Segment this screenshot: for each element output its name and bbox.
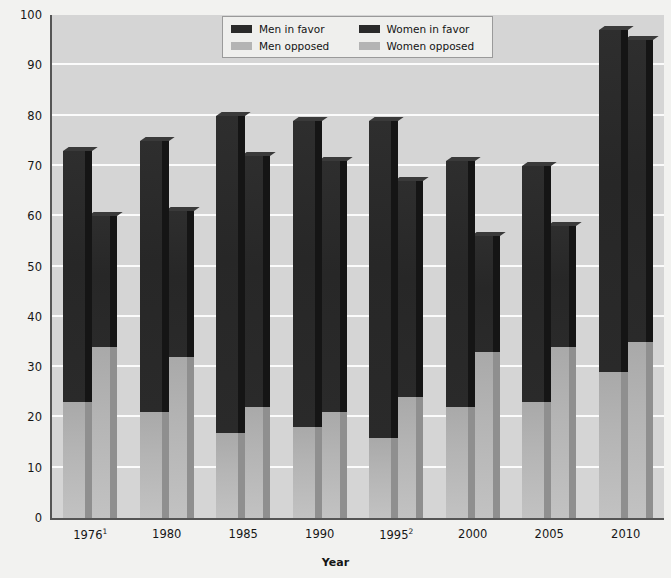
bar-women-2010-favor-side-face	[646, 40, 653, 342]
legend-item: Men in favor	[231, 20, 359, 37]
bar-men-2005-favor-segment	[522, 166, 544, 402]
bar-men-1985-opposed-side-face	[238, 433, 245, 519]
y-axis-tick-label: 40	[0, 310, 42, 324]
bar-women-2005-favor-side-face	[569, 226, 576, 347]
bar-men-1985-favor-segment	[216, 116, 238, 433]
bar-women-1985-opposed-side-face	[263, 407, 270, 518]
x-axis-tick-label: 1980	[152, 527, 181, 541]
bar-women-1985-favor-side-face	[263, 156, 270, 408]
y-axis-tick-label: 50	[0, 260, 42, 274]
bar-men-1995-top-face	[369, 117, 404, 121]
bar-men-1995	[369, 121, 391, 518]
bar-men-1985-favor-side-face	[238, 116, 245, 433]
bar-women-2000-opposed-side-face	[493, 352, 500, 518]
bar-women-1980-top-face	[165, 207, 200, 211]
legend-item: Women opposed	[359, 37, 487, 54]
bar-men-1976-opposed-segment	[63, 402, 85, 518]
bar-women-1980-opposed-side-face	[187, 357, 194, 518]
x-axis-tick-label: 1990	[305, 527, 334, 541]
bar-women-1976-opposed-side-face	[110, 347, 117, 518]
bar-men-1990-opposed-segment	[293, 427, 315, 518]
bar-men-1980-top-face	[140, 137, 175, 141]
bar-men-2010-favor-segment	[599, 30, 621, 372]
bar-men-2005-favor-side-face	[544, 166, 551, 402]
legend-swatch-light	[231, 42, 252, 50]
bar-women-2000-favor-side-face	[493, 236, 500, 352]
bar-men-2000-favor-side-face	[468, 161, 475, 407]
bar-men-1980-opposed-segment	[140, 412, 162, 518]
bar-men-1990	[293, 121, 315, 518]
bar-women-1995-favor-side-face	[416, 181, 423, 397]
x-axis-title: Year	[0, 556, 671, 569]
legend-item-label: Women opposed	[387, 40, 475, 52]
x-axis-tick-label: 2000	[458, 527, 487, 541]
y-axis-tick-label: 0	[0, 511, 42, 525]
bar-women-1985-top-face	[241, 152, 276, 156]
chart-legend: Men in favorWomen in favorMen opposedWom…	[222, 16, 493, 58]
bar-men-1976-favor-side-face	[85, 151, 92, 403]
y-axis-tick-label: 30	[0, 360, 42, 374]
bar-women-1980-favor-side-face	[187, 211, 194, 357]
bar-women-2000-top-face	[471, 232, 506, 236]
bar-men-1980-favor-segment	[140, 141, 162, 413]
legend-item-label: Men in favor	[259, 23, 325, 35]
bar-men-1985-opposed-segment	[216, 433, 238, 519]
bar-men-2010-top-face	[599, 26, 634, 30]
legend-item: Women in favor	[359, 20, 487, 37]
x-tick-footnote-marker: 2	[409, 527, 414, 536]
bar-men-1990-favor-side-face	[315, 121, 322, 428]
bar-men-1985	[216, 116, 238, 518]
bar-men-1990-opposed-side-face	[315, 427, 322, 518]
legend-swatch-dark	[231, 25, 252, 33]
legend-item-label: Women in favor	[387, 23, 470, 35]
x-axis-tick-label: 19952	[379, 527, 413, 542]
legend-swatch-dark	[359, 25, 380, 33]
bar-women-2005-opposed-side-face	[569, 347, 576, 518]
bar-men-1980	[140, 141, 162, 518]
y-axis-tick-label: 80	[0, 109, 42, 123]
bar-women-1976-favor-side-face	[110, 216, 117, 347]
bar-men-1995-favor-segment	[369, 121, 391, 438]
bar-women-1990-opposed-side-face	[340, 412, 347, 518]
x-axis-tick-label: 1985	[229, 527, 258, 541]
bar-men-1990-top-face	[293, 117, 328, 121]
bar-men-1995-opposed-segment	[369, 438, 391, 518]
x-tick-footnote-marker: 1	[103, 527, 108, 536]
bar-women-2010-opposed-side-face	[646, 342, 653, 518]
bar-men-1976-opposed-side-face	[85, 402, 92, 518]
x-axis-tick-label: 19761	[73, 527, 107, 542]
bar-men-1980-opposed-side-face	[162, 412, 169, 518]
bar-chart: 0102030405060708090100 19761198019851990…	[0, 0, 671, 578]
bar-men-1976-top-face	[63, 147, 98, 151]
legend-item: Men opposed	[231, 37, 359, 54]
bar-men-2000-opposed-segment	[446, 407, 468, 518]
x-axis-tick-label: 2010	[611, 527, 640, 541]
x-axis-tick-label: 2005	[535, 527, 564, 541]
bar-men-1976	[63, 151, 85, 518]
y-axis-tick-label: 10	[0, 461, 42, 475]
bar-men-2010	[599, 30, 621, 518]
bar-women-1995-opposed-side-face	[416, 397, 423, 518]
bar-women-1990-favor-side-face	[340, 161, 347, 413]
bar-men-1980-favor-side-face	[162, 141, 169, 413]
bar-men-2005-opposed-segment	[522, 402, 544, 518]
y-axis-tick-label: 60	[0, 209, 42, 223]
bar-men-2005-top-face	[522, 162, 557, 166]
y-axis-tick-label: 70	[0, 159, 42, 173]
bar-men-2000-top-face	[446, 157, 481, 161]
legend-item-label: Men opposed	[259, 40, 329, 52]
y-axis-tick-label: 100	[0, 8, 42, 22]
bar-men-2000-opposed-side-face	[468, 407, 475, 518]
bar-men-2010-opposed-side-face	[621, 372, 628, 518]
bar-women-2010-top-face	[624, 36, 659, 40]
bar-men-1995-favor-side-face	[391, 121, 398, 438]
bar-men-1990-favor-segment	[293, 121, 315, 428]
bar-men-2010-opposed-segment	[599, 372, 621, 518]
bar-men-2005-opposed-side-face	[544, 402, 551, 518]
legend-swatch-light	[359, 42, 380, 50]
bar-men-2000-favor-segment	[446, 161, 468, 407]
bar-women-1995-top-face	[394, 177, 429, 181]
bar-women-1990-top-face	[318, 157, 353, 161]
bar-men-1995-opposed-side-face	[391, 438, 398, 518]
bar-men-1985-top-face	[216, 112, 251, 116]
